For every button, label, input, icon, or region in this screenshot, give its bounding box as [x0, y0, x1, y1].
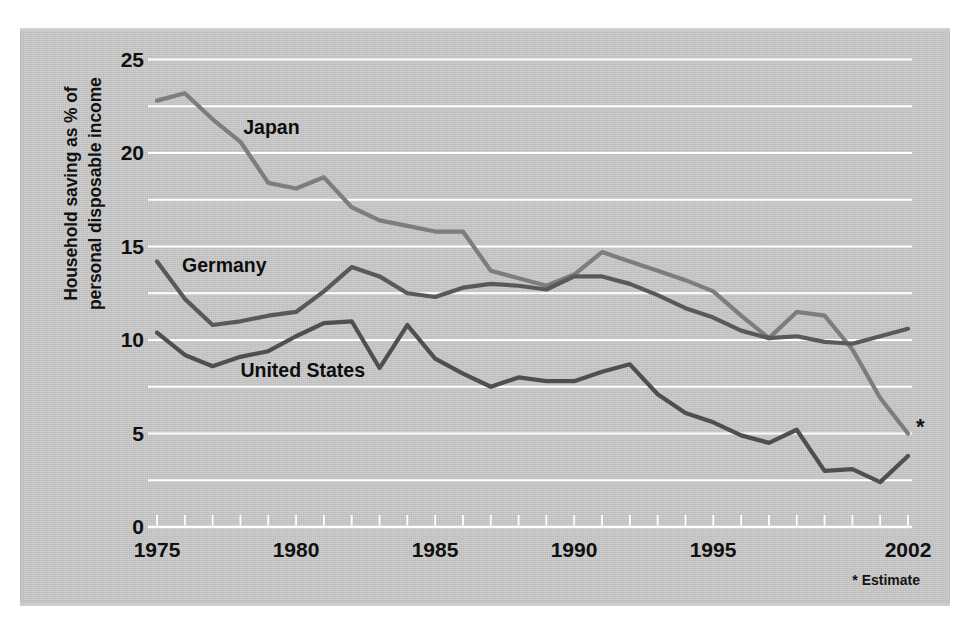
data-series-group [157, 93, 908, 482]
series-line-united-states [157, 321, 908, 482]
gridlines [148, 60, 912, 528]
figure-root: Household saving as % of personal dispos… [0, 0, 970, 624]
line-chart-canvas [0, 0, 970, 624]
series-line-japan [157, 93, 908, 433]
x-axis-minor-ticks [157, 515, 908, 526]
series-line-germany [157, 261, 908, 343]
